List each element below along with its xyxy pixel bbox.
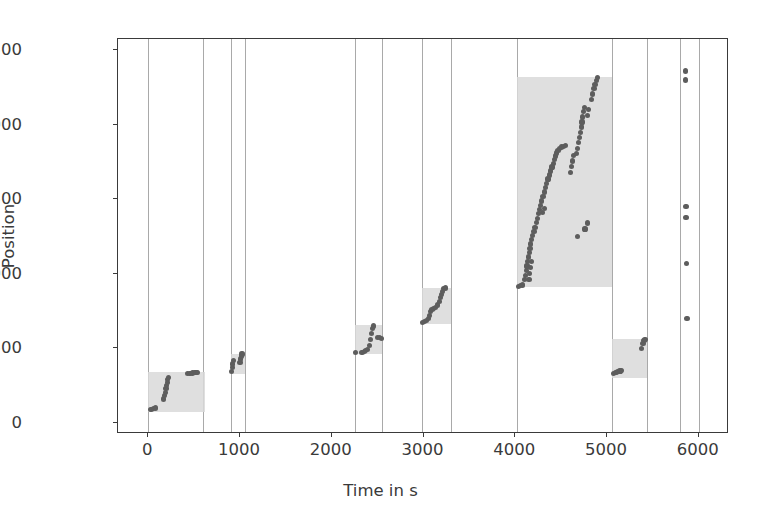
x-axis-title: Time in s [0, 481, 761, 500]
scatter-point [585, 220, 590, 225]
x-axis-tick-label: 6000 [677, 440, 719, 459]
vertical-gridline [382, 39, 383, 432]
x-axis-tick-label: 4000 [493, 440, 535, 459]
scatter-point [371, 323, 376, 328]
scatter-point [353, 350, 358, 355]
x-axis-tick [331, 433, 332, 437]
y-axis-tick [113, 422, 117, 423]
scatter-point [532, 225, 537, 230]
vertical-gridline [422, 39, 423, 432]
x-axis-tick-label: 1000 [218, 440, 260, 459]
scatter-point [683, 204, 688, 209]
x-axis-tick-label: 0 [142, 440, 153, 459]
vertical-gridline [355, 39, 356, 432]
y-axis-tick [113, 49, 117, 50]
x-axis-tick [239, 433, 240, 437]
scatter-point [579, 119, 584, 124]
x-axis-tick [606, 433, 607, 437]
scatter-point [683, 215, 688, 220]
scatter-point [684, 316, 689, 321]
scatter-point [520, 282, 525, 287]
scatter-point [239, 351, 244, 356]
scatter-point [570, 158, 575, 163]
y-axis-tick-label: 2000 [0, 114, 22, 133]
x-axis-tick [698, 433, 699, 437]
y-axis-tick [113, 124, 117, 125]
x-axis-tick [423, 433, 424, 437]
scatter-point [683, 68, 688, 73]
y-axis-tick-label: 500 [0, 338, 22, 357]
scatter-point [535, 216, 540, 221]
scatter-point [540, 194, 545, 199]
x-axis-tick [514, 433, 515, 437]
scatter-point [582, 226, 587, 231]
scatter-point [684, 261, 689, 266]
vertical-gridline [245, 39, 246, 432]
y-axis-tick [113, 198, 117, 199]
scatter-point [591, 86, 596, 91]
vertical-gridline [451, 39, 452, 432]
vertical-gridline [647, 39, 648, 432]
y-axis-tick [113, 347, 117, 348]
scatter-point [528, 241, 533, 246]
scatter-point [542, 206, 547, 211]
scatter-point [683, 77, 688, 82]
scatter-point [563, 143, 568, 148]
x-axis-tick-label: 2000 [310, 440, 352, 459]
scatter-point [575, 146, 580, 151]
y-axis-tick [113, 273, 117, 274]
scatter-point [153, 405, 158, 410]
scatter-point [568, 170, 573, 175]
shaded-band [517, 77, 612, 287]
x-axis-tick [147, 433, 148, 437]
x-axis-tick-label: 5000 [585, 440, 627, 459]
y-axis-tick-label: 0 [12, 412, 23, 431]
plot-area [117, 38, 728, 433]
scatter-point [367, 343, 372, 348]
scatter-point [595, 75, 600, 80]
scatter-point [379, 336, 384, 341]
scatter-point [579, 124, 584, 129]
vertical-gridline [680, 39, 681, 432]
y-axis-tick-label: 2500 [0, 40, 22, 59]
vertical-gridline [699, 39, 700, 432]
scatter-point [642, 337, 647, 342]
scatter-point [526, 277, 531, 282]
scatter-point [443, 285, 448, 290]
figure-canvas: 0100020003000400050006000 05001000150020… [0, 0, 761, 522]
x-axis-tick-label: 3000 [402, 440, 444, 459]
y-axis-title: Position [0, 204, 18, 268]
scatter-point [527, 250, 532, 255]
scatter-point [542, 189, 547, 194]
